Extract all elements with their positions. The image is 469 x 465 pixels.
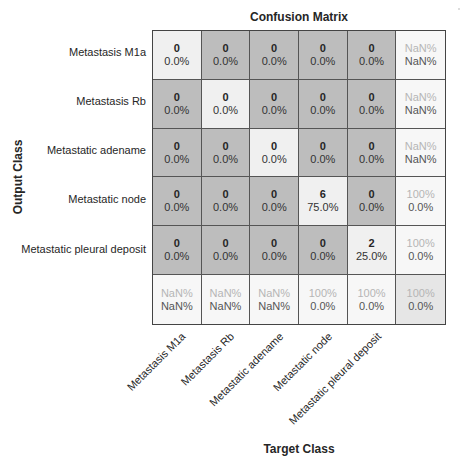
matrix-cell: 00.0% [348, 80, 397, 129]
summary-cell: NaN%NaN% [153, 275, 202, 324]
cell-percent: 0.0% [310, 104, 335, 117]
matrix-cell: 00.0% [153, 177, 202, 226]
cell-percent: 0.0% [310, 55, 335, 68]
cell-count: 0 [320, 140, 326, 153]
cell-count: NaN% [258, 287, 290, 300]
decorative-dot [458, 8, 460, 10]
cell-count: 100% [309, 287, 337, 300]
cell-count: 0 [271, 188, 277, 201]
matrix-cell: 00.0% [153, 129, 202, 178]
matrix-cell: 00.0% [348, 177, 397, 226]
cell-count: 0 [368, 140, 374, 153]
cell-count: 0 [174, 237, 180, 250]
cell-count: NaN% [405, 140, 437, 153]
cell-percent: 0.0% [164, 201, 189, 214]
matrix-cell: 00.0% [250, 80, 299, 129]
cell-percent: 0.0% [262, 104, 287, 117]
summary-cell: NaN%NaN% [250, 275, 299, 324]
confusion-matrix-grid: 00.0%00.0%00.0%00.0%00.0%NaN%NaN%00.0%00… [152, 30, 446, 325]
cell-percent: NaN% [405, 104, 437, 117]
summary-cell: 100%0.0% [396, 275, 445, 324]
matrix-cell: 00.0% [250, 226, 299, 275]
matrix-cell: 00.0% [202, 31, 251, 80]
matrix-cell: 00.0% [250, 129, 299, 178]
cell-count: 100% [407, 188, 435, 201]
cell-count: 100% [357, 287, 385, 300]
cell-percent: 0.0% [359, 55, 384, 68]
y-tick-label: Metastatic node [68, 193, 146, 205]
x-tick-label: Metastasis M1a [125, 330, 188, 393]
x-axis-label: Target Class [152, 442, 446, 456]
cell-percent: NaN% [210, 300, 242, 313]
cell-percent: 0.0% [213, 55, 238, 68]
cell-count: 0 [222, 42, 228, 55]
cell-count: 6 [320, 188, 326, 201]
cell-count: 0 [320, 91, 326, 104]
cell-count: 0 [271, 42, 277, 55]
cell-count: 0 [271, 237, 277, 250]
matrix-cell: 00.0% [202, 80, 251, 129]
cell-percent: 0.0% [310, 153, 335, 166]
summary-cell: 100%0.0% [396, 177, 445, 226]
cell-percent: 0.0% [164, 55, 189, 68]
cell-count: 0 [368, 188, 374, 201]
matrix-cell: 00.0% [348, 129, 397, 178]
y-tick-label: Metastatic pleural deposit [21, 243, 146, 255]
matrix-cell: 225.0% [348, 226, 397, 275]
cell-percent: 0.0% [359, 153, 384, 166]
matrix-cell: 00.0% [299, 129, 348, 178]
cell-percent: 0.0% [310, 300, 335, 313]
cell-count: 0 [174, 91, 180, 104]
y-axis-label: Output Class [11, 140, 25, 215]
y-tick-label: Metastatic adename [47, 144, 146, 156]
matrix-cell: 00.0% [250, 177, 299, 226]
summary-cell: NaN%NaN% [396, 129, 445, 178]
chart-title: Confusion Matrix [152, 10, 446, 24]
cell-percent: 0.0% [213, 104, 238, 117]
matrix-cell: 00.0% [153, 31, 202, 80]
cell-count: 0 [222, 140, 228, 153]
cell-count: 0 [368, 91, 374, 104]
cell-percent: 0.0% [262, 250, 287, 263]
cell-count: NaN% [161, 287, 193, 300]
y-tick-label: Metastasis M1a [69, 46, 146, 58]
cell-count: 0 [174, 42, 180, 55]
cell-percent: 0.0% [213, 201, 238, 214]
matrix-cell: 00.0% [202, 129, 251, 178]
cell-percent: 0.0% [164, 250, 189, 263]
summary-cell: NaN%NaN% [396, 80, 445, 129]
cell-count: 0 [320, 237, 326, 250]
cell-percent: 0.0% [213, 153, 238, 166]
cell-percent: 0.0% [262, 201, 287, 214]
cell-percent: 0.0% [262, 153, 287, 166]
cell-count: 2 [368, 237, 374, 250]
summary-cell: NaN%NaN% [202, 275, 251, 324]
cell-count: 0 [174, 188, 180, 201]
cell-percent: 0.0% [213, 250, 238, 263]
cell-count: 0 [222, 188, 228, 201]
matrix-cell: 00.0% [299, 31, 348, 80]
summary-cell: 100%0.0% [348, 275, 397, 324]
cell-percent: NaN% [405, 55, 437, 68]
cell-percent: 0.0% [310, 250, 335, 263]
matrix-cell: 00.0% [153, 226, 202, 275]
cell-percent: 0.0% [164, 104, 189, 117]
cell-percent: NaN% [161, 300, 193, 313]
cell-percent: 75.0% [307, 201, 338, 214]
x-tick-label: Metastatic pleural deposit [287, 330, 384, 427]
matrix-cell: 00.0% [202, 226, 251, 275]
cell-count: 0 [271, 140, 277, 153]
cell-count: 0 [222, 237, 228, 250]
matrix-cell: 00.0% [299, 226, 348, 275]
cell-count: 0 [271, 91, 277, 104]
summary-cell: NaN%NaN% [396, 31, 445, 80]
cell-percent: NaN% [258, 300, 290, 313]
cell-percent: 0.0% [164, 153, 189, 166]
summary-cell: 100%0.0% [396, 226, 445, 275]
cell-count: 0 [174, 140, 180, 153]
cell-percent: 0.0% [408, 201, 433, 214]
matrix-cell: 00.0% [202, 177, 251, 226]
summary-cell: 100%0.0% [299, 275, 348, 324]
matrix-cell: 675.0% [299, 177, 348, 226]
cell-percent: 0.0% [359, 104, 384, 117]
